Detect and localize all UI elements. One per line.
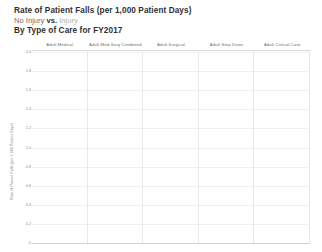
chart-subtitle: No Injury vs. Injury: [14, 16, 314, 26]
falls-rate-chart: Rate of Patient Falls (per 1,000 Patient…: [0, 0, 322, 252]
gridline: [199, 148, 254, 149]
gridline: [199, 52, 254, 53]
panel-header-adult-critical-care: Adult Critical Care: [254, 39, 310, 51]
panel-adult-surgical: [143, 52, 199, 243]
gridline: [88, 167, 143, 168]
panel-header-adult-surgical: Adult Surgical: [143, 39, 199, 51]
y-axis-tick-label: 1.0: [26, 146, 31, 150]
panel-adult-step-down: [199, 52, 255, 243]
gridline: [88, 52, 143, 53]
gridline: [32, 128, 87, 129]
panel-header-adult-med-surg-combined: Adult Med-Surg Combined: [88, 39, 144, 51]
gridline: [143, 224, 198, 225]
gridline: [32, 205, 87, 206]
y-axis-ticks: 00.20.40.60.81.01.21.41.61.82.0: [20, 52, 32, 243]
y-axis-tick-label: 0.4: [26, 203, 31, 207]
gridline: [32, 71, 87, 72]
y-axis-tick-label: 2.0: [26, 50, 31, 54]
panel-container: [32, 52, 310, 243]
gridline: [254, 186, 309, 187]
gridline: [32, 224, 87, 225]
gridline: [32, 148, 87, 149]
gridline: [32, 109, 87, 110]
gridline: [32, 167, 87, 168]
panel-header-row: Adult Medical Adult Med-Surg Combined Ad…: [32, 39, 310, 51]
gridline: [143, 109, 198, 110]
chart-title-line3: By Type of Care for FY2017: [14, 26, 314, 36]
gridline: [88, 128, 143, 129]
y-axis-tick-label: 0.8: [26, 165, 31, 169]
gridline: [143, 71, 198, 72]
panel-adult-medical: [32, 52, 88, 243]
gridline: [32, 90, 87, 91]
subtitle-no-injury: No Injury: [14, 16, 44, 25]
x-axis-baseline: [32, 243, 310, 244]
gridline: [143, 148, 198, 149]
subtitle-vs: vs.: [47, 16, 58, 25]
gridline: [199, 90, 254, 91]
gridline: [254, 224, 309, 225]
gridline: [254, 90, 309, 91]
gridline: [254, 167, 309, 168]
gridline: [199, 167, 254, 168]
gridline: [32, 52, 87, 53]
y-axis-tick-label: 1.8: [26, 69, 31, 73]
gridline: [199, 71, 254, 72]
gridline: [199, 109, 254, 110]
gridline: [143, 128, 198, 129]
panel-adult-critical-care: [254, 52, 310, 243]
gridline: [254, 71, 309, 72]
gridline: [254, 128, 309, 129]
gridline: [32, 186, 87, 187]
gridline: [88, 186, 143, 187]
y-axis-tick-label: 1.4: [26, 107, 31, 111]
gridline: [254, 205, 309, 206]
panel-adult-med-surg-combined: [88, 52, 144, 243]
panel-header-adult-step-down: Adult Step Down: [199, 39, 255, 51]
y-axis-tick-label: 1.2: [26, 126, 31, 130]
gridline: [143, 186, 198, 187]
gridline: [199, 224, 254, 225]
gridline: [88, 205, 143, 206]
gridline: [88, 90, 143, 91]
gridline: [143, 90, 198, 91]
y-axis-tick-label: 0.6: [26, 184, 31, 188]
subtitle-injury: Injury: [59, 16, 78, 25]
gridline: [143, 52, 198, 53]
gridline: [254, 148, 309, 149]
gridline: [88, 71, 143, 72]
y-axis-tick-label: 0: [29, 241, 31, 245]
y-axis-tick-label: 0.2: [26, 222, 31, 226]
gridline: [254, 109, 309, 110]
chart-title: Rate of Patient Falls (per 1,000 Patient…: [14, 6, 314, 16]
chart-title-block: Rate of Patient Falls (per 1,000 Patient…: [14, 6, 314, 36]
gridline: [88, 224, 143, 225]
gridline: [199, 128, 254, 129]
y-axis-tick-label: 1.6: [26, 88, 31, 92]
y-axis-title: Rate of Patient Falls (per 1,000 Patient…: [8, 66, 17, 252]
gridline: [143, 167, 198, 168]
panel-header-adult-medical: Adult Medical: [32, 39, 88, 51]
gridline: [88, 109, 143, 110]
gridline: [199, 186, 254, 187]
gridline: [199, 205, 254, 206]
gridline: [88, 148, 143, 149]
gridline: [254, 52, 309, 53]
plot-area: Adult Medical Adult Med-Surg Combined Ad…: [14, 39, 310, 244]
gridline: [143, 205, 198, 206]
